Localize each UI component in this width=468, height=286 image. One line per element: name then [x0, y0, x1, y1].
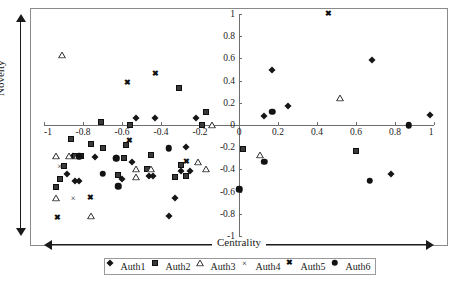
- circle-marker-icon: [76, 153, 83, 160]
- x-marker-icon: ×: [242, 258, 247, 267]
- x-axis-tick-label: -0.4: [153, 127, 168, 137]
- circle-marker-icon: [236, 186, 243, 193]
- x-axis-tick: [395, 122, 396, 125]
- bold-x-marker-icon: ✖: [126, 137, 133, 145]
- square-marker-icon: [68, 136, 74, 142]
- y-axis-tick-label: 1: [230, 9, 235, 19]
- triangle-marker-icon: [58, 52, 66, 59]
- triangle-marker-icon: [132, 174, 140, 181]
- circle-marker-icon: [113, 155, 120, 162]
- legend: Auth1Auth2Auth3×Auth4✖Auth5Auth6: [104, 258, 376, 275]
- bold-x-marker-icon: ✖: [124, 79, 131, 87]
- diamond-marker-icon: [388, 170, 395, 177]
- diamond-marker-icon: [76, 177, 83, 184]
- triangle-marker-icon: [52, 195, 60, 202]
- x-axis-tick: [44, 122, 45, 125]
- diamond-marker-icon: [269, 66, 276, 73]
- legend-label: Auth2: [166, 261, 191, 272]
- legend-item-auth3[interactable]: Auth3: [200, 261, 236, 272]
- x-axis-tick-label: -0.8: [75, 127, 90, 137]
- square-marker-icon: [176, 85, 182, 91]
- triangle-marker-icon: [202, 166, 210, 173]
- legend-label: Auth3: [211, 261, 236, 272]
- triangle-marker-icon: [87, 213, 95, 220]
- triangle-marker-icon: [194, 158, 202, 165]
- circle-marker-icon: [115, 183, 122, 190]
- legend-item-auth5[interactable]: ✖Auth5: [290, 261, 326, 272]
- square-marker-icon: [98, 119, 104, 125]
- legend-item-auth2[interactable]: Auth2: [155, 261, 191, 272]
- y-axis-tick-label: 0.2: [223, 98, 235, 108]
- legend-item-auth6[interactable]: Auth6: [335, 261, 371, 272]
- x-axis-tick: [161, 122, 162, 125]
- y-axis-tick: [239, 125, 242, 126]
- diamond-marker-icon: [132, 115, 139, 122]
- y-axis-tick-label: 0.8: [223, 31, 235, 41]
- y-axis-tick: [239, 14, 242, 15]
- diamond-marker-icon: [150, 173, 157, 180]
- circle-marker-icon: [331, 259, 338, 266]
- novelty-axis-arrow: [14, 14, 26, 236]
- legend-marker: ×: [245, 263, 253, 271]
- x-axis-tick: [122, 122, 123, 125]
- x-axis-tick-label: 0.8: [389, 127, 401, 137]
- triangle-marker-icon: [208, 122, 216, 129]
- diamond-marker-icon: [106, 259, 113, 266]
- legend-label: Auth1: [121, 261, 146, 272]
- diamond-marker-icon: [64, 170, 71, 177]
- plot-area: -1-0.8-0.6-0.4-0.200.20.40.60.81-1-0.8-0…: [44, 14, 434, 236]
- y-axis-tick: [239, 103, 242, 104]
- bold-x-marker-icon: ✖: [54, 214, 61, 222]
- diamond-marker-icon: [152, 115, 159, 122]
- square-marker-icon: [121, 155, 127, 161]
- diamond-marker-icon: [171, 195, 178, 202]
- x-axis-tick-label: 0.4: [311, 127, 323, 137]
- legend-marker: [200, 263, 208, 271]
- y-axis-tick: [239, 36, 242, 37]
- square-marker-icon: [152, 260, 158, 266]
- circle-marker-icon: [405, 122, 412, 129]
- legend-label: Auth4: [256, 261, 281, 272]
- diamond-marker-icon: [91, 154, 98, 161]
- x-axis-tick-label: 1: [429, 127, 434, 137]
- x-axis-tick: [83, 122, 84, 125]
- y-axis-tick-label: -0.6: [220, 187, 235, 197]
- y-axis-tick-label: -0.4: [220, 164, 235, 174]
- square-marker-icon: [172, 174, 178, 180]
- legend-item-auth1[interactable]: Auth1: [110, 261, 146, 272]
- arrow-right-icon: [426, 240, 434, 250]
- x-axis-tick-label: -1: [44, 127, 52, 137]
- square-marker-icon: [57, 176, 63, 182]
- bold-x-marker-icon: ✖: [286, 259, 293, 267]
- x-axis-tick-label: 0.2: [272, 127, 284, 137]
- triangle-marker-icon: [336, 95, 344, 102]
- legend-item-auth4[interactable]: ×Auth4: [245, 261, 281, 272]
- square-marker-icon: [148, 152, 154, 158]
- circle-marker-icon: [261, 158, 268, 165]
- y-axis-tick: [239, 214, 242, 215]
- bold-x-marker-icon: ✖: [325, 10, 332, 18]
- triangle-marker-icon: [196, 259, 204, 266]
- x-marker-icon: ×: [57, 162, 62, 171]
- legend-marker: [335, 263, 343, 271]
- triangle-marker-icon: [147, 166, 155, 173]
- x-axis-title: Centrality: [212, 236, 266, 248]
- bold-x-marker-icon: ✖: [152, 70, 159, 78]
- arrow-shaft: [20, 20, 21, 230]
- square-marker-icon: [353, 148, 359, 154]
- legend-label: Auth6: [346, 261, 371, 272]
- x-axis-tick-label: -0.2: [192, 127, 207, 137]
- x-axis-tick: [434, 122, 435, 125]
- y-axis-tick-label: 0: [230, 120, 235, 130]
- y-axis-tick-label: -1: [227, 231, 235, 241]
- y-axis-tick-label: -0.8: [220, 209, 235, 219]
- centrality-axis-arrow: Centrality: [44, 238, 434, 250]
- y-axis-title: Novelty: [0, 61, 6, 96]
- diamond-marker-icon: [193, 115, 200, 122]
- square-marker-icon: [88, 141, 94, 147]
- circle-marker-icon: [166, 145, 173, 152]
- x-axis-tick: [356, 122, 357, 125]
- y-axis-tick-label: 0.4: [223, 76, 235, 86]
- diamond-marker-icon: [261, 113, 268, 120]
- y-axis-tick: [239, 58, 242, 59]
